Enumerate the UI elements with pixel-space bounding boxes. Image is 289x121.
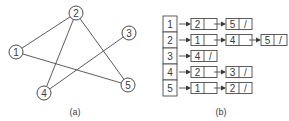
graph-node-5: 5 [121, 78, 135, 92]
graph-node-1: 1 [9, 45, 23, 59]
graph-edges [16, 13, 129, 93]
node-label: 2 [73, 8, 79, 19]
edge-1-2 [16, 13, 76, 52]
edge-1-5 [16, 52, 128, 85]
null-pointer-marker: / [279, 35, 282, 46]
list-node: 1 [191, 83, 217, 94]
adjacency-row-3: 34/ [163, 48, 217, 64]
diagram-canvas: 12345 (a) 125/2145/34/423/512/ (b) [0, 0, 289, 121]
list-node: 5/ [226, 19, 252, 30]
null-pointer-marker: / [209, 51, 212, 62]
list-node-value: 4 [230, 35, 236, 46]
list-node: 2 [191, 67, 217, 78]
list-node: 4 [226, 35, 252, 46]
list-node-value: 5 [230, 19, 236, 30]
node-label: 4 [41, 88, 47, 99]
edge-2-4 [44, 13, 76, 93]
adjacency-list-caption: (b) [216, 107, 227, 117]
list-node-value: 1 [195, 83, 201, 94]
list-node: 2/ [226, 83, 252, 94]
list-node: 5/ [261, 35, 287, 46]
vertex-label: 5 [167, 83, 173, 94]
vertex-label: 2 [167, 35, 173, 46]
adjacency-row-5: 512/ [163, 80, 252, 96]
graph-node-2: 2 [69, 6, 83, 20]
vertex-label: 1 [167, 19, 173, 30]
null-pointer-marker: / [244, 83, 247, 94]
adjacency-row-2: 2145/ [163, 32, 287, 48]
node-label: 1 [13, 47, 19, 58]
list-node-value: 1 [195, 35, 201, 46]
edge-2-5 [76, 13, 128, 85]
list-node: 1 [191, 35, 217, 46]
adjacency-list: 125/2145/34/423/512/ [163, 16, 287, 96]
graph-nodes: 12345 [9, 6, 136, 100]
vertex-label: 4 [167, 67, 173, 78]
null-pointer-marker: / [244, 19, 247, 30]
graph-node-4: 4 [37, 86, 51, 100]
list-node-value: 4 [195, 51, 201, 62]
edge-3-4 [44, 33, 129, 93]
adjacency-row-4: 423/ [163, 64, 252, 80]
null-pointer-marker: / [244, 67, 247, 78]
list-node-value: 5 [265, 35, 271, 46]
list-node-value: 3 [230, 67, 236, 78]
node-label: 3 [126, 28, 132, 39]
list-node: 3/ [226, 67, 252, 78]
vertex-label: 3 [167, 51, 173, 62]
adjacency-row-1: 125/ [163, 16, 252, 32]
list-node-value: 2 [195, 67, 201, 78]
graph-node-3: 3 [122, 26, 136, 40]
node-label: 5 [125, 80, 131, 91]
list-node: 4/ [191, 51, 217, 62]
list-node: 2 [191, 19, 217, 30]
list-node-value: 2 [230, 83, 236, 94]
list-node-value: 2 [195, 19, 201, 30]
graph-caption: (a) [70, 107, 81, 117]
